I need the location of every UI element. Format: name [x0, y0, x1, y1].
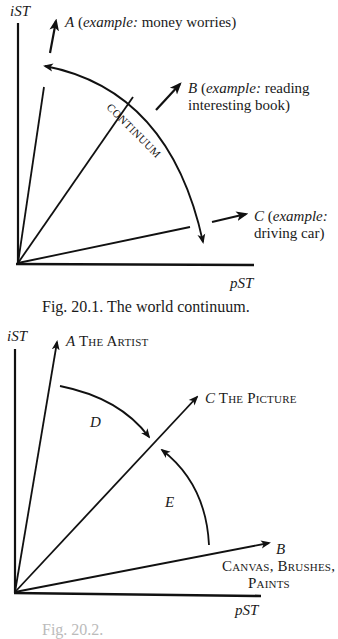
- fig2-arc-d: [60, 386, 149, 437]
- fig1-vector-a-label: A (example: money worries): [65, 14, 236, 31]
- fig2-vector-b-text1: Canvas, Brushes,: [222, 558, 335, 575]
- fig1-vector-c-example: example:: [273, 208, 328, 224]
- fig1-vector-c-text2: driving car): [254, 225, 324, 241]
- fig2-pst-axis: [14, 593, 261, 596]
- fig1-ist-label: iST: [10, 3, 30, 20]
- fig2-vector-a-text: The Artist: [79, 333, 148, 349]
- fig1-pst-axis: [16, 264, 254, 265]
- fig1-caption: Fig. 20.1. The world continuum.: [42, 298, 250, 316]
- fig2-ist-label: iST: [7, 328, 27, 345]
- fig2-vector-a-letter: A: [66, 333, 75, 349]
- fig2-arc-e-label: E: [165, 494, 174, 511]
- fig2-vector-b-text2: Paints: [248, 575, 290, 592]
- fig1-vector-c-label: C (example: driving car): [254, 208, 328, 242]
- fig2-pst-label: pST: [235, 602, 258, 619]
- fig1-vector-b-text2: interesting book): [188, 97, 290, 113]
- fig1-vector-c: [18, 227, 190, 263]
- fig1-continuum-arc: [45, 66, 203, 242]
- fig1-vector-b: [18, 97, 133, 263]
- fig2-caption: Fig. 20.2.: [42, 621, 103, 639]
- fig1-vector-b-example: example:: [206, 80, 261, 96]
- fig1-vector-a-arrow: [50, 21, 56, 53]
- fig2-vector-a-label: A The Artist: [66, 333, 148, 350]
- fig1-axes: [16, 23, 254, 265]
- fig2-vector-b-letter: B: [276, 541, 285, 558]
- fig2-vector-c-letter: C: [205, 390, 215, 406]
- fig1-pst-label: pST: [230, 275, 253, 292]
- fig1-vector-b-arrow: [156, 84, 180, 110]
- fig2-vector-c-text: The Picture: [219, 390, 297, 406]
- fig2-arc-d-label: D: [90, 414, 101, 431]
- fig2-vector-c-label: C The Picture: [205, 390, 297, 407]
- fig1-vector-b-text: reading: [261, 80, 310, 96]
- fig1-vector-c-arrow: [212, 214, 246, 222]
- fig1-vector-b-letter: B: [188, 80, 197, 96]
- fig1-vector-a-text: money worries): [138, 14, 236, 30]
- fig1-vector-b-label: B (example: reading interesting book): [188, 80, 310, 114]
- fig1-vector-a: [18, 87, 44, 263]
- fig1-vector-a-letter: A: [65, 14, 74, 30]
- fig1-vector-a-example: example:: [83, 14, 138, 30]
- fig1-vector-c-letter: C: [254, 208, 264, 224]
